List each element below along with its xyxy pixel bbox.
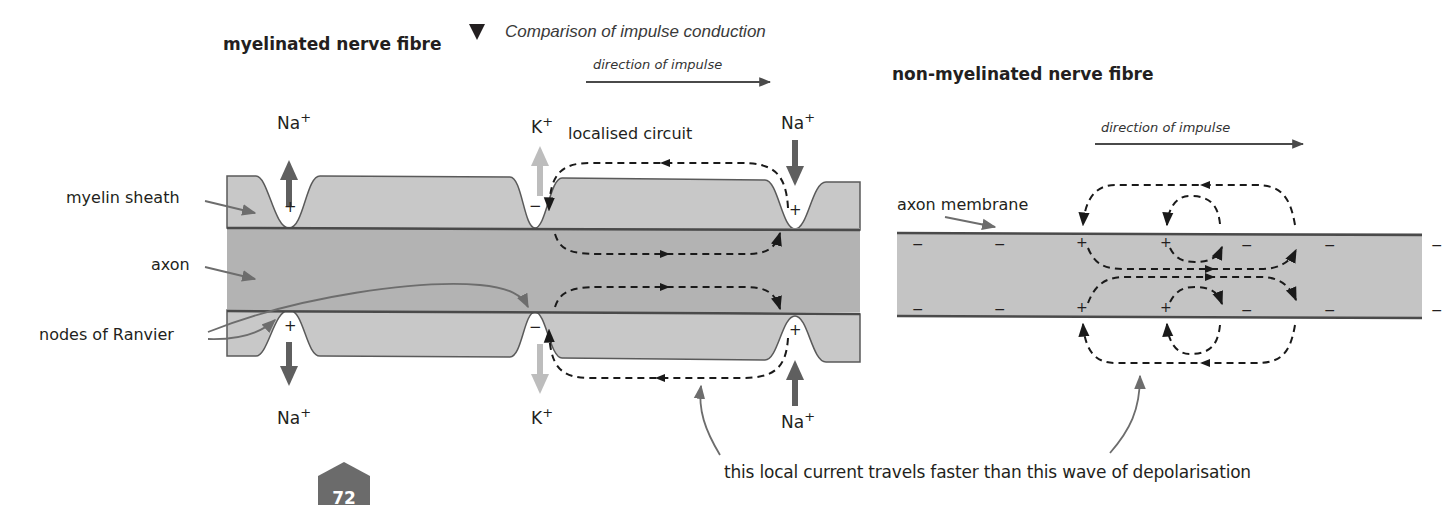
na-arrow-icon [786, 140, 804, 186]
charge-top: − [912, 236, 924, 252]
charge-top: − [994, 236, 1006, 252]
ion-k-top: K+ [531, 114, 553, 137]
axon-label: axon [151, 255, 190, 274]
charge-top: + [1076, 234, 1088, 250]
myelinated-heading: myelinated nerve fibre [223, 34, 442, 54]
figure-caption: this local current travels faster than t… [724, 462, 1251, 482]
figure-title: Comparison of impulse conduction [505, 22, 766, 42]
nodes-of-ranvier-label: nodes of Ranvier [39, 325, 174, 344]
charge-bottom: − [994, 301, 1006, 317]
charge-node1-bottom: + [284, 317, 297, 335]
axon-membrane-label: axon membrane [897, 195, 1028, 214]
myelinated-direction-label: direction of impulse [593, 57, 722, 72]
non-myelinated-direction-label: direction of impulse [1101, 120, 1230, 135]
charge-bottom: + [1076, 299, 1088, 315]
page-number: 72 [318, 488, 370, 505]
charge-top: − [1324, 237, 1336, 253]
charge-node3-bottom: + [789, 321, 802, 339]
title-triangle-icon [469, 24, 485, 40]
charge-bottom: − [1324, 302, 1336, 318]
myelinated-fibre [205, 140, 860, 406]
charge-node2-top: − [529, 197, 542, 215]
k-arrow-icon [531, 146, 549, 196]
charge-top: + [1160, 234, 1172, 250]
ion-na-top-right: Na+ [781, 110, 815, 133]
charge-top: − [1431, 237, 1443, 253]
ion-na-top-left: Na+ [277, 110, 311, 133]
ion-k-bottom: K+ [531, 405, 553, 428]
ion-na-bottom-left: Na+ [277, 405, 311, 428]
charge-node3-top: + [789, 201, 802, 219]
caption-pointer-left [700, 386, 720, 455]
ion-na-bottom-right: Na+ [781, 409, 815, 432]
charge-bottom: − [912, 301, 924, 317]
charge-top: − [1241, 237, 1253, 253]
na-arrow-icon [280, 342, 298, 386]
myelin-sheath-top [227, 176, 860, 230]
myelin-sheath-label: myelin sheath [66, 188, 180, 207]
diagram-canvas [0, 0, 1448, 505]
page-number-badge: 72 [318, 462, 370, 505]
myelin-sheath-bottom [227, 310, 860, 362]
charge-bottom: − [1241, 302, 1253, 318]
charge-node2-bottom: − [529, 318, 542, 336]
axon-membrane-pointer [945, 217, 995, 227]
k-arrow-icon [531, 344, 549, 394]
charge-bottom: − [1431, 302, 1443, 318]
charge-bottom: + [1160, 299, 1172, 315]
charge-node1-top: + [284, 198, 297, 216]
na-arrow-icon [786, 360, 804, 406]
non-myelinated-heading: non-myelinated nerve fibre [892, 64, 1153, 84]
localised-circuit-label: localised circuit [568, 124, 692, 143]
caption-pointer-right [1110, 376, 1140, 453]
